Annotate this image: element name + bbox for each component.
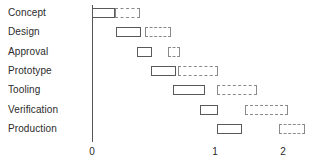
category-label-prototype: Prototype	[8, 65, 52, 77]
x-tick-label-2: 2	[280, 146, 286, 157]
category-label-design: Design	[8, 26, 40, 38]
category-label-concept: Concept	[8, 7, 46, 19]
gantt-bar-planned-design	[145, 27, 171, 37]
gantt-bar-planned-concept	[115, 8, 140, 18]
gantt-bar-planned-approval	[168, 47, 180, 57]
category-label-tooling: Tooling	[8, 84, 40, 96]
x-tick-label-1: 1	[212, 146, 218, 157]
gantt-chart: ConceptDesignApprovalPrototypeToolingVer…	[0, 0, 313, 164]
gantt-bar-actual-production	[217, 124, 242, 134]
gantt-bar-planned-production	[279, 124, 305, 134]
gantt-bar-actual-design	[116, 27, 141, 37]
gantt-bar-actual-prototype	[151, 66, 176, 76]
gantt-bar-planned-prototype	[178, 66, 218, 76]
category-label-verification: Verification	[8, 104, 58, 116]
gantt-bar-actual-verification	[200, 105, 218, 115]
value-axis-line	[92, 5, 93, 142]
gantt-bar-planned-verification	[245, 105, 288, 115]
gantt-bar-actual-concept	[92, 8, 115, 18]
category-label-approval: Approval	[8, 46, 48, 58]
category-label-production: Production	[8, 123, 57, 135]
gantt-bar-planned-tooling	[217, 85, 257, 95]
x-tick-label-0: 0	[89, 146, 95, 157]
gantt-bar-actual-tooling	[173, 85, 205, 95]
gantt-bar-actual-approval	[137, 47, 152, 57]
